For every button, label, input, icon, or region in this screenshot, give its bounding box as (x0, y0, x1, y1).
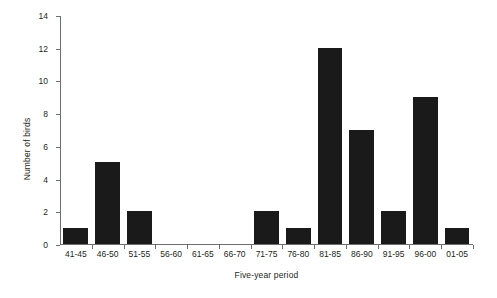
x-tick-label: 81-85 (319, 250, 341, 259)
bar (445, 228, 470, 244)
bar (349, 130, 374, 245)
bar (95, 162, 120, 244)
x-tick-mark (155, 245, 156, 249)
x-axis-title: Five-year period (60, 270, 473, 280)
y-tick-label: 12 (39, 44, 48, 53)
x-tick-mark (282, 245, 283, 249)
bar (413, 97, 438, 244)
y-tick-mark (56, 245, 60, 246)
bar (381, 211, 406, 244)
bar (318, 48, 343, 244)
y-tick-mark (56, 49, 60, 50)
x-tick-label: 46-50 (97, 250, 119, 259)
x-tick-mark (251, 245, 252, 249)
y-tick-label: 10 (39, 77, 48, 86)
bar (286, 228, 311, 244)
bar-series (60, 16, 473, 245)
bar-chart-figure: Number of birds 02468101214 41-4546-5051… (0, 0, 497, 298)
y-tick-mark (56, 147, 60, 148)
x-tick-label: 51-55 (129, 250, 151, 259)
x-tick-label: 56-60 (160, 250, 182, 259)
x-tick-label: 41-45 (65, 250, 87, 259)
y-tick-mark (56, 212, 60, 213)
x-tick-label: 61-65 (192, 250, 214, 259)
x-tick-mark (219, 245, 220, 249)
y-tick-label: 4 (43, 175, 48, 184)
x-axis-tick-labels: 41-4546-5051-5556-6061-6566-7071-7576-80… (60, 250, 473, 264)
bar (254, 211, 279, 244)
x-tick-label: 91-95 (383, 250, 405, 259)
y-axis-tick-labels: 02468101214 (26, 0, 48, 298)
x-tick-mark (441, 245, 442, 249)
y-tick-label: 6 (43, 143, 48, 152)
bar (127, 211, 152, 244)
y-tick-label: 2 (43, 208, 48, 217)
x-tick-mark (187, 245, 188, 249)
x-tick-label: 01-05 (446, 250, 468, 259)
x-tick-mark (314, 245, 315, 249)
plot-area (60, 16, 473, 245)
x-tick-label: 86-90 (351, 250, 373, 259)
x-tick-mark (124, 245, 125, 249)
x-tick-mark (473, 245, 474, 249)
x-tick-mark (92, 245, 93, 249)
x-tick-mark (378, 245, 379, 249)
y-tick-mark (56, 114, 60, 115)
y-tick-label: 14 (39, 12, 48, 21)
y-tick-mark (56, 81, 60, 82)
bar (63, 228, 88, 244)
x-tick-label: 76-80 (287, 250, 309, 259)
x-tick-label: 66-70 (224, 250, 246, 259)
x-tick-mark (409, 245, 410, 249)
y-tick-label: 8 (43, 110, 48, 119)
x-tick-label: 96-00 (414, 250, 436, 259)
y-tick-mark (56, 180, 60, 181)
x-tick-label: 71-75 (256, 250, 278, 259)
y-tick-mark (56, 16, 60, 17)
x-tick-mark (346, 245, 347, 249)
y-tick-label: 0 (43, 241, 48, 250)
